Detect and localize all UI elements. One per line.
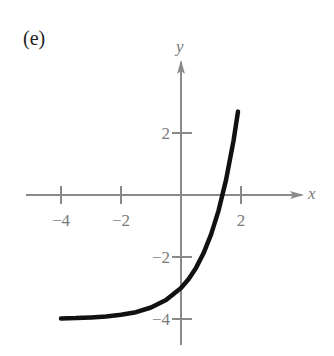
- function-plot: −4−222−2−4 x y: [0, 0, 334, 356]
- x-tick-label: 2: [237, 211, 246, 230]
- x-tick-label: −2: [112, 211, 130, 230]
- x-tick-label: −4: [52, 211, 71, 230]
- y-tick-label: −2: [152, 248, 170, 267]
- y-tick-label: −4: [152, 310, 171, 329]
- y-axis-label: y: [174, 37, 184, 56]
- function-curve: [61, 112, 238, 319]
- ticks: −4−222−2−4: [52, 124, 245, 329]
- y-tick-label: 2: [162, 124, 171, 143]
- x-axis-label: x: [307, 184, 316, 203]
